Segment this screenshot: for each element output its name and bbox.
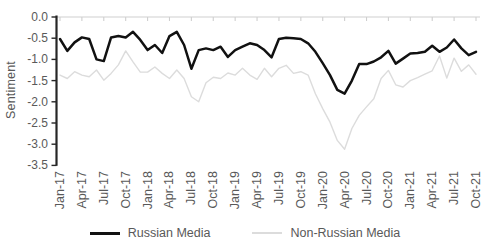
x-tick-label: Apr-19: [250, 171, 264, 209]
y-tick-label: -2.0: [27, 95, 48, 109]
x-tick-label: Jan-19: [228, 171, 242, 209]
x-tick-label: Jan-18: [141, 171, 155, 209]
x-tick-label: Jul-20: [360, 171, 374, 205]
y-tick-label: -3.5: [27, 158, 48, 172]
x-tick-label: Oct-19: [294, 171, 308, 209]
line-russian-media: [60, 32, 476, 94]
y-tick-label: -1.0: [27, 52, 48, 66]
legend: Russian Media Non-Russian Media: [0, 226, 490, 240]
x-tick-label: Oct-20: [381, 171, 395, 209]
x-tick-label: Jan-21: [403, 171, 417, 209]
legend-label-russian-media: Russian Media: [128, 226, 211, 240]
y-tick-label: -0.5: [27, 31, 48, 45]
y-tick-label: -1.5: [27, 74, 48, 88]
sentiment-chart: Sentiment 0.0-0.5-1.0-1.5-2.0-2.5-3.0-3.…: [0, 0, 490, 246]
x-tick-label: Apr-17: [75, 171, 89, 209]
x-tick-label: Apr-18: [162, 171, 176, 209]
x-tick-label: Jul-17: [97, 171, 111, 205]
plot-area: 0.0-0.5-1.0-1.5-2.0-2.5-3.0-3.5Jan-17Apr…: [0, 0, 490, 246]
line-non-russian-media: [60, 51, 476, 149]
y-tick-label: -2.5: [27, 116, 48, 130]
x-tick-label: Apr-21: [425, 171, 439, 209]
x-tick-label: Jul-21: [447, 171, 461, 205]
x-tick-label: Oct-17: [119, 171, 133, 209]
x-tick-label: Jan-17: [53, 171, 67, 209]
y-tick-label: 0.0: [31, 10, 48, 24]
russian-media-line-swatch: [90, 232, 120, 235]
x-tick-label: Oct-18: [206, 171, 220, 209]
legend-item-non-russian-media: Non-Russian Media: [252, 226, 400, 240]
x-tick-label: Apr-20: [338, 171, 352, 209]
x-tick-label: Jul-19: [272, 171, 286, 205]
y-tick-label: -3.0: [27, 137, 48, 151]
x-tick-label: Oct-21: [469, 171, 483, 209]
x-tick-label: Jul-18: [184, 171, 198, 205]
legend-label-non-russian-media: Non-Russian Media: [290, 226, 400, 240]
non-russian-media-line-swatch: [252, 232, 282, 234]
x-tick-label: Jan-20: [316, 171, 330, 209]
legend-item-russian-media: Russian Media: [90, 226, 211, 240]
